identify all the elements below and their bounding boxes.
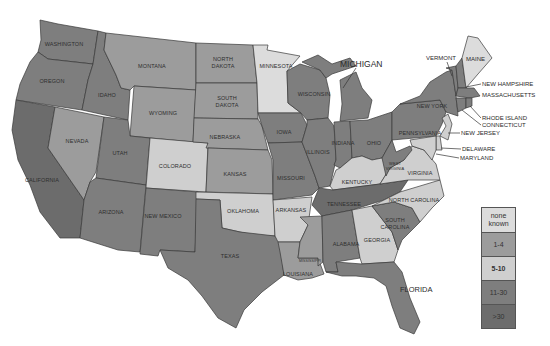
legend-item-over-30: >30 — [482, 304, 515, 328]
label-delaware: DELAWARE — [462, 146, 495, 152]
label-new-york: NEW YORK — [417, 103, 448, 109]
state-new-jersey — [440, 114, 452, 140]
label-arkansas: ARKANSAS — [276, 207, 307, 213]
label-kentucky: KENTUCKY — [342, 179, 373, 185]
label-maine: MAINE — [466, 56, 485, 62]
us-choropleth-map: WASHINGTON OREGON CALIFORNIA IDAHO NEVAD… — [0, 0, 550, 346]
label-south-dakota-2: DAKOTA — [216, 102, 239, 108]
label-kansas: KANSAS — [224, 171, 247, 177]
label-idaho: IDAHO — [98, 92, 117, 98]
label-arizona: ARIZONA — [98, 209, 123, 215]
label-massachusetts: MASSACHUSETTS — [482, 92, 535, 98]
state-rhode-island — [466, 98, 472, 108]
label-south-carolina-2: CAROLINA — [381, 224, 410, 230]
label-pennsylvania: PENNSYLVANIA — [399, 130, 442, 136]
state-michigan — [340, 72, 372, 121]
label-texas: TEXAS — [221, 253, 240, 259]
label-vermont: VERMONT — [426, 55, 456, 61]
label-ohio: OHIO — [367, 140, 382, 146]
label-new-hampshire: NEW HAMPSHIRE — [482, 81, 533, 87]
label-nebraska: NEBRASKA — [210, 134, 241, 140]
label-maryland: MARYLAND — [460, 155, 494, 161]
label-mississippi: MISSISSIPPI — [299, 259, 321, 263]
label-tennessee: TENNESSEE — [327, 201, 361, 207]
leader-maryland — [436, 154, 459, 158]
label-michigan: MICHIGAN — [340, 59, 383, 69]
label-montana: MONTANA — [138, 63, 166, 69]
legend-item-5-10: 5-10 — [482, 256, 515, 280]
legend-item-11-30: 11-30 — [482, 280, 515, 304]
label-oklahoma: OKLAHOMA — [227, 208, 259, 214]
label-oregon: OREGON — [39, 78, 64, 84]
label-missouri: MISSOURI — [277, 175, 305, 181]
label-florida: FLORIDA — [400, 285, 433, 294]
state-arizona — [80, 178, 146, 252]
label-north-carolina: NORTH CAROLINA — [389, 197, 440, 203]
label-wisconsin: WISCONSIN — [298, 91, 331, 97]
state-new-mexico — [140, 188, 198, 256]
label-alabama: ALABAMA — [333, 241, 360, 247]
state-florida — [326, 262, 420, 334]
label-indiana: INDIANA — [331, 140, 354, 146]
label-washington: WASHINGTON — [45, 41, 84, 47]
legend: none known 1-4 5-10 11-30 >30 — [481, 207, 516, 329]
label-connecticut: CONNECTICUT — [482, 122, 526, 128]
leader-rhode-island — [470, 106, 481, 118]
label-iowa: IOWA — [277, 129, 292, 135]
label-california: CALIFORNIA — [25, 177, 59, 183]
leader-delaware — [441, 148, 461, 149]
label-rhode-island: RHODE ISLAND — [482, 115, 528, 121]
label-colorado: COLORADO — [159, 163, 192, 169]
label-nevada: NEVADA — [66, 138, 89, 144]
label-illinois: ILLINOIS — [306, 149, 330, 155]
label-wyoming: WYOMING — [149, 110, 177, 116]
label-north-dakota-2: DAKOTA — [212, 63, 235, 69]
label-virginia: VIRGINIA — [408, 170, 433, 176]
label-south-carolina-1: SOUTH — [385, 217, 405, 223]
legend-item-1-4: 1-4 — [482, 232, 515, 256]
state-massachusetts — [456, 88, 480, 98]
label-minnesota: MINNESOTA — [259, 63, 292, 69]
label-new-mexico: NEW MEXICO — [144, 213, 182, 219]
legend-item-none-known: none known — [482, 208, 515, 232]
label-louisiana: LOUISIANA — [283, 271, 313, 277]
label-west-virginia-2: VIRGINIA — [386, 166, 405, 171]
label-new-jersey: NEW JERSEY — [461, 130, 500, 136]
label-north-dakota-1: NORTH — [213, 56, 233, 62]
leader-connecticut — [462, 110, 481, 125]
state-connecticut — [456, 98, 466, 112]
label-georgia: GEORGIA — [364, 237, 391, 243]
label-south-dakota-1: SOUTH — [217, 95, 237, 101]
label-utah: UTAH — [113, 150, 128, 156]
state-south-dakota — [194, 83, 258, 119]
